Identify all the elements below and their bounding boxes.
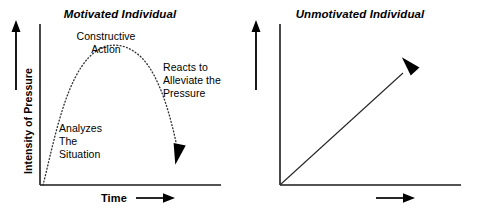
annotation-line: Analyzes	[59, 122, 102, 135]
panel-unmotivated-individual: Unmotivated Individual Intensity of Pres…	[240, 0, 480, 220]
annotation-analyzes-the-situation: Analyzes The Situation	[59, 122, 102, 162]
annotation-line: Constructive	[63, 30, 149, 43]
curve-unmotivated-solid	[281, 73, 403, 184]
arrowhead-down-icon	[169, 143, 185, 166]
plot-area-unmotivated	[240, 0, 480, 220]
annotation-line: The	[59, 135, 102, 148]
annotation-line: Situation	[59, 148, 102, 161]
annotation-constructive-action: Constructive Action	[63, 30, 149, 56]
arrow-right-icon	[376, 193, 415, 202]
annotation-line: Action	[63, 43, 149, 56]
x-axis-label-motivated: Time	[101, 192, 127, 204]
panel-motivated-individual: Motivated Individual	[0, 0, 240, 220]
y-axis-label-motivated: Intensity of Pressure	[22, 68, 34, 174]
arrowhead-up-right-icon	[397, 53, 419, 75]
annotation-line: Alleviate the	[163, 74, 221, 87]
two-panel-pressure-diagram: Motivated Individual	[0, 0, 480, 220]
arrow-up-icon	[12, 20, 21, 90]
annotation-line: Reacts to	[163, 61, 221, 74]
arrow-right-icon	[136, 193, 175, 202]
annotation-reacts-to-alleviate-the-pressure: Reacts to Alleviate the Pressure	[163, 61, 221, 101]
annotation-line: Pressure	[163, 87, 221, 100]
arrow-up-icon	[252, 20, 261, 90]
curve-motivated-dotted	[43, 45, 176, 185]
